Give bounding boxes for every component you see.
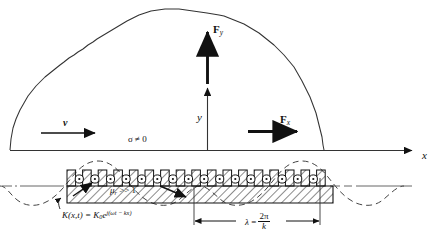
- permeability-label: μr >> 1: [110, 186, 136, 196]
- y-axis-label: y: [197, 112, 202, 123]
- conductor-marker: [262, 175, 270, 183]
- conductor-marker: [106, 175, 114, 183]
- force-x-label: Fx: [280, 114, 290, 127]
- conductor-marker: [200, 175, 208, 183]
- conductor-marker: [138, 175, 146, 183]
- force-y-label: Fy: [213, 24, 223, 37]
- conductor-marker: [153, 175, 161, 183]
- conductor-marker: [216, 175, 224, 183]
- conductor-marker: [278, 175, 286, 183]
- slotted-core: [67, 170, 333, 203]
- conductor-marker: [75, 175, 83, 183]
- force-y-subscript: y: [220, 28, 223, 37]
- conductor-marker: [294, 175, 302, 183]
- conductor-marker: [169, 175, 177, 183]
- conductor-marker: [91, 175, 99, 183]
- wavelength-label: λ = 2πk: [245, 212, 270, 231]
- current-sheet-equation: K(x,t) = K0ej(ωt − kx): [62, 210, 132, 220]
- current-sheet-exponent: j(ωt − kx): [106, 209, 131, 216]
- conductivity-label: σ ≠ 0: [128, 135, 147, 144]
- wavelength-denominator: k: [258, 222, 269, 231]
- conductor-marker: [122, 175, 130, 183]
- induction-machine-figure: Fy Fx v y x σ ≠ 0 μr >> 1 K(x,t) = K0ej(…: [0, 0, 440, 243]
- conductor-marker: [231, 175, 239, 183]
- wavelength-fraction: 2πk: [258, 212, 269, 231]
- conductor-marker: [247, 175, 255, 183]
- conducting-region-boundary: [10, 9, 324, 150]
- conductor-marker: [184, 175, 192, 183]
- velocity-label: v: [63, 118, 67, 128]
- x-axis-label: x: [422, 150, 427, 161]
- conductor-marker: [309, 175, 317, 183]
- force-x-subscript: x: [287, 118, 290, 127]
